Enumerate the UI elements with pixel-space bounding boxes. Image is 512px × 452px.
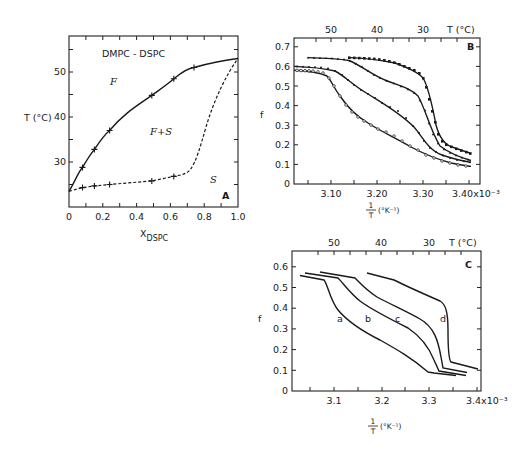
panel-c-curve-b-label: b (365, 313, 371, 324)
panel-c-toptick-40: 40 (375, 237, 387, 248)
panel-c-ytick-3: 0.3 (273, 323, 288, 334)
panel-b-markers-curve-1 (296, 69, 468, 167)
panel-c-xlabel-num: 1 (371, 417, 376, 426)
panel-b-toptick-50: 50 (325, 24, 337, 35)
panel-b-frame (294, 38, 480, 184)
panel-c-xtick-34: 3.4x10⁻³ (466, 395, 508, 406)
fluidus-curve (69, 59, 238, 192)
panel-b-toptick-40: 40 (371, 24, 383, 35)
panel-a-xtick-3: 0.6 (163, 211, 178, 222)
panel-c-ytick-2: 0.2 (273, 344, 288, 355)
panel-a-ytick-40: 40 (54, 111, 66, 122)
panel-c-xtick-31: 3.1 (326, 395, 341, 406)
panel-c-xlabel-unit: (°K⁻¹) (380, 422, 402, 431)
panel-b-xlabel-unit: (°K⁻¹) (378, 206, 400, 215)
panel-b-ytick-3: 0.3 (275, 120, 290, 131)
panel-b-ticks (294, 38, 480, 184)
panel-b-ytick-5: 0.5 (275, 81, 290, 92)
panel-c-xlabel-den: T (370, 427, 376, 436)
panel-b-top-label: T (°C) (446, 24, 475, 35)
panel-c-ylabel: f (258, 313, 262, 324)
panel-c-toptick-30: 30 (423, 237, 435, 248)
panel-a-xlabel: XDSPC (140, 228, 169, 243)
panel-b: 3.10 3.20 3.30 3.40x10⁻³ 0 0.1 0.2 0.3 0… (260, 24, 500, 220)
panel-c-ytick-5: 0.5 (273, 282, 288, 293)
panel-b-ytick-4: 0.4 (275, 100, 290, 111)
panel-c-ytick-0: 0 (282, 385, 288, 396)
panel-c-curve-a (300, 276, 456, 376)
panel-c-label: C (465, 259, 472, 270)
panel-b-ytick-7: 0.7 (275, 41, 290, 52)
panel-c-curve-a-label: a (337, 313, 343, 324)
solidus-curve (69, 59, 238, 192)
panel-b-markers-curve-3 (307, 56, 470, 160)
panel-b-ytick-1: 0.1 (275, 159, 290, 170)
panel-a-xlabel-sub: DSPC (147, 234, 169, 243)
panel-b-xlabel-num: 1 (369, 201, 374, 210)
panel-a-xtick-1: 0.2 (95, 211, 110, 222)
region-solid-label: S (210, 174, 217, 185)
fluidus-markers (80, 65, 198, 171)
panel-c-ytick-4: 0.4 (273, 302, 288, 313)
panel-b-xtick-310: 3.10 (320, 188, 341, 199)
panel-c-xlabel: 1 T (°K⁻¹) (368, 417, 402, 436)
panel-b-xlabel-den: T (368, 211, 374, 220)
panel-a-xtick-5: 1.0 (230, 211, 245, 222)
solidus-markers (80, 173, 177, 190)
panel-b-xlabel: 1 T (°K⁻¹) (366, 201, 400, 220)
panel-a-title: DMPC - DSPC (102, 48, 165, 59)
panel-b-curve-1 (294, 70, 471, 166)
figure-canvas: 0 0.2 0.4 0.6 0.8 1.0 30 40 50 T (°C) XD… (0, 0, 512, 452)
panel-b-ytick-0: 0 (284, 178, 290, 189)
panel-c-ytick-6: 0.6 (273, 261, 288, 272)
panel-c-xtick-33: 3.3 (421, 395, 436, 406)
panel-c-top-label: T (°C) (448, 237, 477, 248)
panel-a: 0 0.2 0.4 0.6 0.8 1.0 30 40 50 T (°C) XD… (23, 36, 246, 243)
panel-a-ylabel: T (°C) (23, 112, 52, 123)
panel-c: 3.1 3.2 3.3 3.4x10⁻³ 0 0.1 0.2 0.3 0.4 0… (258, 237, 508, 436)
panel-b-toptick-30: 30 (417, 24, 429, 35)
panel-b-ylabel: f (260, 109, 264, 120)
panel-b-ytick-6: 0.6 (275, 61, 290, 72)
panel-a-ytick-30: 30 (54, 156, 66, 167)
panel-a-y-ticks (69, 50, 238, 185)
panel-b-xtick-330: 3.30 (412, 188, 433, 199)
panel-b-markers-curve-4 (348, 56, 472, 154)
panel-b-xtick-340: 3.40x10⁻³ (452, 188, 500, 199)
panel-c-curve-d-label: d (440, 313, 446, 324)
panel-b-label: B (467, 41, 474, 52)
panel-c-xtick-32: 3.2 (374, 395, 389, 406)
panel-a-label: A (222, 190, 230, 201)
panel-b-curve-2 (294, 66, 471, 162)
region-coexistence-label: F+S (149, 126, 172, 137)
panel-a-xtick-4: 0.8 (197, 211, 212, 222)
panel-c-curve-c-label: c (395, 313, 400, 324)
panel-b-xtick-320: 3.20 (366, 188, 387, 199)
panel-a-xtick-2: 0.4 (129, 211, 144, 222)
region-fluid-label: F (109, 76, 118, 87)
panel-c-toptick-50: 50 (328, 237, 340, 248)
panel-b-curve-4 (349, 58, 471, 154)
panel-b-ytick-2: 0.2 (275, 139, 290, 150)
panel-c-ytick-1: 0.1 (273, 365, 288, 376)
panel-a-ytick-50: 50 (54, 66, 66, 77)
panel-a-xtick-0: 0 (66, 211, 72, 222)
